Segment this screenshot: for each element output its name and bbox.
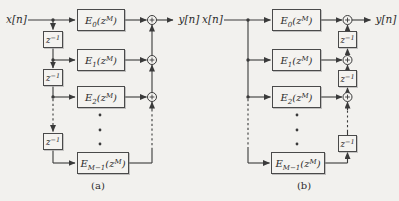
filter-box-em1-b: EM−1(zM) <box>271 152 325 174</box>
filter-label: E1(zM) <box>280 55 312 66</box>
output-signal-label-a: y[n] <box>176 13 202 26</box>
delay-label: z−1 <box>340 35 354 45</box>
filter-label: E0(zM) <box>280 15 312 26</box>
delay-box-2-b: z−1 <box>338 70 357 87</box>
delay-box-3-a: z−1 <box>43 133 63 150</box>
delay-box-2-a: z−1 <box>43 69 63 86</box>
delay-label: z−1 <box>340 139 354 149</box>
filter-box-e0-b: E0(zM) <box>272 9 321 31</box>
output-signal-label-b: y[n] <box>373 13 399 26</box>
diagram-b-ellipsis-dots <box>296 114 299 146</box>
diagram-a-ellipsis-dots <box>99 114 102 146</box>
input-signal-label-b: x[n] <box>200 13 225 26</box>
filter-label: EM−1(zM) <box>80 158 125 169</box>
delay-label: z−1 <box>46 73 60 83</box>
filter-label: EM−1(zM) <box>275 158 320 169</box>
input-signal-label-a: x[n] <box>4 13 29 26</box>
delay-label: z−1 <box>46 35 60 45</box>
delay-box-3-b: z−1 <box>338 135 357 152</box>
delay-label: z−1 <box>340 74 354 84</box>
delay-box-1-b: z−1 <box>338 31 357 48</box>
subfigure-caption-b: (b) <box>290 180 318 192</box>
filter-label: E2(zM) <box>85 92 117 103</box>
polyphase-decomposition-figure: x[n] y[n] E0(zM) E1(zM) E2(zM) EM−1(zM) … <box>0 0 399 201</box>
filter-box-e2-b: E2(zM) <box>272 86 321 108</box>
delay-box-1-a: z−1 <box>43 31 63 48</box>
filter-box-e1-b: E1(zM) <box>272 49 321 71</box>
subfigure-caption-a: (a) <box>84 180 112 192</box>
filter-label: E2(zM) <box>280 92 312 103</box>
filter-box-e1-a: E1(zM) <box>77 49 125 71</box>
delay-label: z−1 <box>46 137 60 147</box>
filter-box-e2-a: E2(zM) <box>77 86 125 108</box>
filter-box-e0-a: E0(zM) <box>77 9 125 31</box>
filter-label: E0(zM) <box>85 15 117 26</box>
filter-label: E1(zM) <box>85 55 117 66</box>
filter-box-em1-a: EM−1(zM) <box>77 152 129 174</box>
